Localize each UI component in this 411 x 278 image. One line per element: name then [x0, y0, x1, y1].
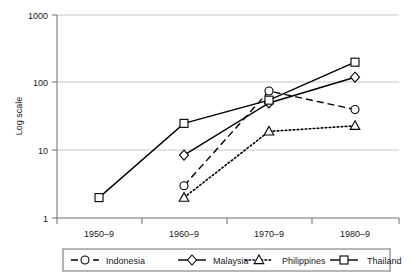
legend-marker-square-icon	[340, 256, 348, 264]
data-point-square	[180, 119, 188, 127]
data-point-square	[265, 96, 273, 104]
data-point-circle	[351, 106, 359, 114]
x-tick-labels: 1950–9 1960–9 1970–9 1980–9	[84, 229, 370, 239]
y-axis-title: Log scale	[14, 97, 24, 136]
data-point-triangle	[179, 193, 189, 202]
legend-label-indonesia: Indonesia	[106, 256, 145, 266]
data-point-square	[351, 58, 359, 66]
data-point-circle	[265, 87, 273, 95]
legend-label-malaysia: Malaysia	[213, 256, 249, 266]
series-malaysia	[180, 72, 360, 160]
x-tick-label-1950: 1950–9	[84, 229, 114, 239]
y-tick-label-100: 100	[33, 78, 48, 88]
y-tick-label-1: 1	[43, 214, 48, 224]
data-point-circle	[180, 182, 188, 190]
series-layer	[95, 58, 360, 201]
log-scale-line-chart: 1000 100 10 1 1950–9 1960–9 1970–9 1980–…	[0, 0, 411, 278]
data-point-square	[95, 194, 103, 202]
series-thailand	[95, 58, 359, 201]
y-tick-labels: 1000 100 10 1	[28, 11, 48, 224]
legend: IndonesiaMalaysiaPhilippinesThailand	[63, 249, 402, 271]
legend-marker-circle-icon	[81, 256, 89, 264]
y-tick-label-1000: 1000	[28, 11, 48, 21]
data-point-triangle	[264, 126, 274, 135]
x-tick-label-1970: 1970–9	[254, 229, 284, 239]
legend-label-thailand: Thailand	[367, 256, 402, 266]
x-tick-label-1980: 1980–9	[340, 229, 370, 239]
chart-canvas: 1000 100 10 1 1950–9 1960–9 1970–9 1980–…	[0, 0, 411, 278]
x-tick-label-1960: 1960–9	[169, 229, 199, 239]
y-tick-label-10: 10	[38, 146, 48, 156]
series-line-thailand	[99, 62, 355, 197]
data-point-diamond	[351, 72, 360, 82]
legend-label-philippines: Philippines	[282, 256, 326, 266]
gridlines	[57, 15, 399, 150]
data-point-triangle	[350, 121, 360, 130]
series-line-philippines	[184, 126, 355, 198]
data-point-diamond	[180, 150, 189, 160]
